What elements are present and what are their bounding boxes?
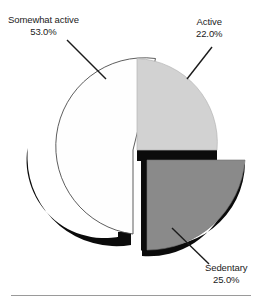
- pie-chart-graphic: [0, 0, 266, 305]
- leader-line-somewhat-active: [67, 40, 106, 79]
- slice-label-active-name: Active: [196, 16, 222, 28]
- leader-line-active: [187, 47, 212, 79]
- slice-label-somewhat-active-percent: 53.0%: [8, 26, 79, 38]
- active-depth: [137, 150, 217, 161]
- slice-label-sedentary-name: Sedentary: [205, 262, 247, 274]
- slice-label-sedentary-percent: 25.0%: [205, 274, 247, 286]
- sedentary-depth-left: [141, 160, 147, 256]
- slice-label-somewhat-active: Somewhat active 53.0%: [8, 14, 79, 37]
- slice-label-active: Active 22.0%: [196, 16, 222, 39]
- slice-label-sedentary: Sedentary 25.0%: [205, 262, 247, 285]
- slice-sedentary-group: [141, 160, 245, 256]
- somewhat-active-depth-foot: [118, 232, 131, 245]
- slice-active-group: [137, 59, 217, 162]
- slice-active: [137, 59, 217, 151]
- baseline-rule: [11, 295, 251, 296]
- slice-label-active-percent: 22.0%: [196, 28, 222, 40]
- pie-chart: Somewhat active 53.0% Active 22.0% Seden…: [0, 0, 266, 305]
- slice-label-somewhat-active-name: Somewhat active: [8, 14, 79, 26]
